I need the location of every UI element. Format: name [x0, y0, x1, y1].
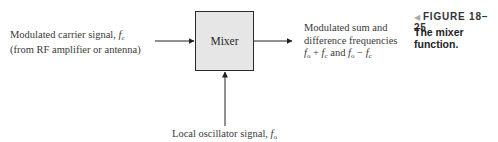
- left-triangle-icon: ◀: [414, 13, 421, 22]
- figure-caption: The mixer function.: [414, 26, 498, 50]
- output-frequencies-label: Modulated sum and difference frequencies…: [304, 22, 397, 63]
- local-oscillator-label: Local oscillator signal, fo: [172, 128, 277, 142]
- carrier-signal-label: Modulated carrier signal, fc (from RF am…: [10, 29, 141, 56]
- mixer-block: Mixer: [195, 11, 254, 71]
- mixer-label: Mixer: [210, 35, 238, 47]
